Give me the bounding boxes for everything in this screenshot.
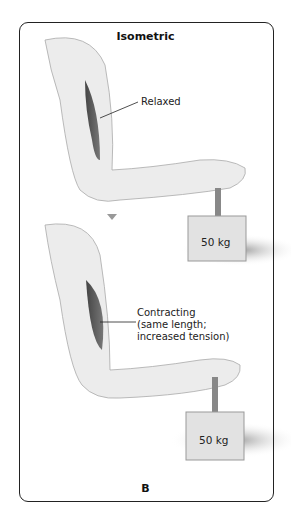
figure-frame (19, 22, 274, 502)
relaxed-label: Relaxed (141, 96, 181, 108)
label-line: Contracting (137, 307, 229, 319)
figure-title: Isometric (0, 30, 291, 43)
weight-label: 50 kg (201, 236, 230, 248)
panel-label: B (0, 482, 291, 495)
label-line: increased tension) (137, 331, 229, 343)
contracting-label: Contracting (same length; increased tens… (137, 307, 229, 343)
weight-label: 50 kg (199, 434, 228, 446)
label-line: (same length; (137, 319, 229, 331)
